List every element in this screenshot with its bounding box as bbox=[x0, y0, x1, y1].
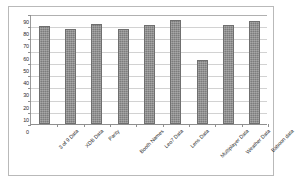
bar[interactable] bbox=[170, 20, 181, 124]
x-tick-label: Multiplayer Data bbox=[219, 128, 250, 159]
bar[interactable] bbox=[144, 25, 155, 124]
plot-area bbox=[30, 15, 267, 125]
y-tick-label: 60 bbox=[23, 57, 29, 62]
y-axis: 0102030405060708090 bbox=[13, 15, 29, 125]
x-tick-label: Booth Names bbox=[138, 128, 165, 155]
x-tick-label: Leo7 Data bbox=[163, 128, 184, 149]
bar[interactable] bbox=[39, 26, 50, 124]
chart-container: 0102030405060708090 3 of 9 DataXDB DataP… bbox=[8, 6, 274, 176]
y-tick-label: 50 bbox=[23, 69, 29, 74]
bar-series bbox=[31, 15, 267, 124]
bar[interactable] bbox=[249, 21, 260, 124]
x-tick-label: Parity bbox=[107, 128, 121, 142]
bar[interactable] bbox=[223, 25, 234, 124]
chart-plot-wrapper: 0102030405060708090 3 of 9 DataXDB DataP… bbox=[9, 7, 273, 175]
bar[interactable] bbox=[91, 24, 102, 124]
y-tick-label: 40 bbox=[23, 81, 29, 86]
x-tick-label: 3 of 9 Data bbox=[58, 128, 80, 150]
bar[interactable] bbox=[65, 29, 76, 124]
bar[interactable] bbox=[118, 29, 129, 124]
y-tick-label: 30 bbox=[23, 94, 29, 99]
x-tick-label: Lens Data bbox=[189, 128, 210, 149]
y-tick-label: 10 bbox=[23, 118, 29, 123]
y-tick-label: 20 bbox=[23, 106, 29, 111]
y-tick-label: 70 bbox=[23, 45, 29, 50]
y-tick-label: 0 bbox=[26, 130, 29, 135]
y-tick-label: 80 bbox=[23, 33, 29, 38]
bar[interactable] bbox=[197, 60, 208, 124]
y-tick-label: 90 bbox=[23, 20, 29, 25]
x-axis: 3 of 9 DataXDB DataParityBooth NamesLeo7… bbox=[30, 126, 267, 174]
x-tick-label: XDB Data bbox=[83, 128, 104, 149]
x-tick-mark bbox=[268, 124, 269, 127]
